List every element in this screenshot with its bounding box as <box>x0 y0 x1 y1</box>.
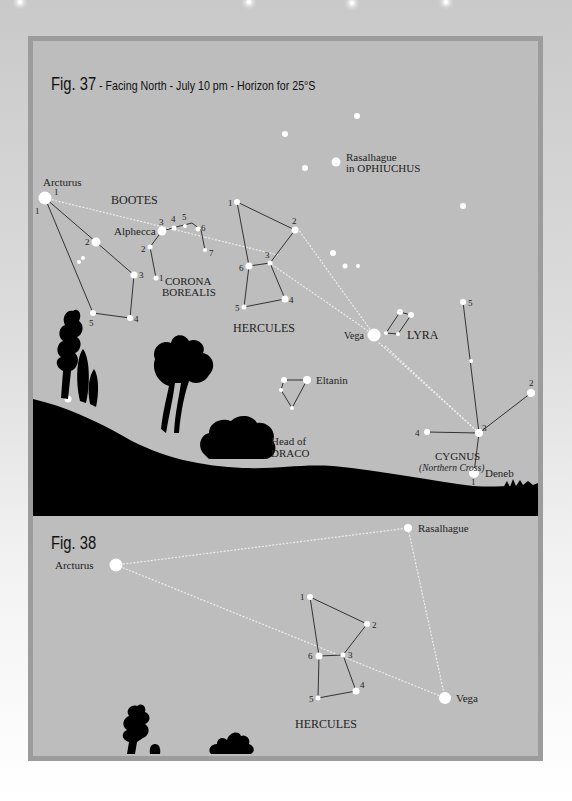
stars <box>39 113 536 478</box>
draco-label-line2: DRACO <box>271 447 310 459</box>
svg-text:3: 3 <box>482 423 487 433</box>
svg-text:3: 3 <box>139 270 144 280</box>
svg-text:4: 4 <box>134 314 139 324</box>
svg-text:5: 5 <box>89 318 94 328</box>
lyra-label: LYRA <box>407 328 439 342</box>
svg-text:4: 4 <box>360 680 365 690</box>
background-star <box>18 0 22 4</box>
figure-37-frame: Fig. 37 - Facing North - July 10 pm - Ho… <box>28 36 543 516</box>
star-chart-37: Arcturus BOOTES Alphecca CORONA BOREALIS… <box>33 41 538 516</box>
svg-text:5: 5 <box>235 303 240 313</box>
svg-text:2: 2 <box>141 244 146 254</box>
svg-text:4: 4 <box>289 295 294 305</box>
hercules-label: HERCULES <box>233 321 295 335</box>
arcturus-label: Arcturus <box>43 176 82 188</box>
figure-38-panel: Fig. 38 <box>33 516 538 756</box>
draco-label-line1: Head of <box>271 435 306 447</box>
svg-text:6: 6 <box>308 651 313 661</box>
eltanin-label: Eltanin <box>316 374 348 386</box>
svg-text:1: 1 <box>35 206 40 216</box>
svg-text:2: 2 <box>529 378 534 388</box>
svg-text:1: 1 <box>228 198 233 208</box>
svg-text:3: 3 <box>348 650 353 660</box>
vega-label: Vega <box>344 330 365 341</box>
bottom-silhouette <box>123 704 254 754</box>
figure-38-frame: Fig. 38 <box>28 516 543 761</box>
arcturus-label: Arcturus <box>55 559 94 571</box>
alphecca-label: Alphecca <box>114 225 156 237</box>
rasalhague-label-line2: in OPHIUCHUS <box>346 162 420 174</box>
figure-37-panel: Fig. 37 - Facing North - July 10 pm - Ho… <box>33 41 538 516</box>
background-star <box>350 1 354 5</box>
svg-text:7: 7 <box>209 248 214 258</box>
svg-text:4: 4 <box>415 428 420 438</box>
svg-text:6: 6 <box>201 223 206 233</box>
vega-label: Vega <box>456 692 478 704</box>
svg-text:6: 6 <box>239 263 244 273</box>
svg-text:3: 3 <box>265 250 270 260</box>
deneb-label: Deneb <box>485 467 514 479</box>
svg-text:1: 1 <box>159 273 164 283</box>
svg-text:2: 2 <box>85 237 90 247</box>
pointer-lines <box>116 528 445 698</box>
svg-text:1: 1 <box>471 477 476 487</box>
svg-text:1: 1 <box>54 187 59 197</box>
background-star <box>247 0 251 4</box>
rasalhague-label: Rasalhague <box>418 522 469 534</box>
horizon-silhouette <box>33 310 538 516</box>
stars <box>110 524 452 704</box>
svg-text:1: 1 <box>300 592 305 602</box>
cygnus-label: CYGNUS <box>435 450 480 462</box>
constellation-lines <box>45 198 531 473</box>
star-chart-38: Arcturus Rasalhague Vega HERCULES 1 2 3 … <box>33 516 538 756</box>
svg-text:5: 5 <box>468 298 473 308</box>
svg-text:5: 5 <box>309 694 314 704</box>
background-star <box>444 0 448 4</box>
hercules-label: HERCULES <box>295 717 357 731</box>
svg-text:3: 3 <box>159 217 164 227</box>
corona-label-line2: BOREALIS <box>162 286 216 298</box>
labels: Arcturus BOOTES Alphecca CORONA BOREALIS… <box>43 151 514 479</box>
cygnus-subtitle-label: (Northern Cross) <box>419 463 484 474</box>
svg-text:2: 2 <box>372 620 377 630</box>
bootes-label: BOOTES <box>111 193 158 207</box>
svg-text:5: 5 <box>182 212 187 222</box>
svg-text:2: 2 <box>292 216 297 226</box>
svg-text:4: 4 <box>171 214 176 224</box>
